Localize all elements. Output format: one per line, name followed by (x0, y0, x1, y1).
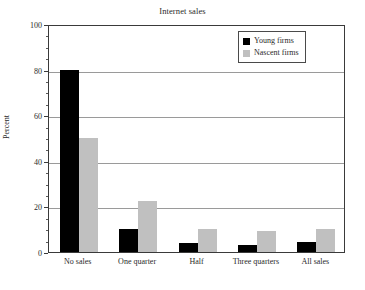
y-axis-tick-major (44, 253, 48, 254)
bar-nascent-0 (79, 138, 98, 252)
bar-young-1 (119, 229, 138, 252)
y-axis-tick-label: 100 (30, 21, 42, 30)
legend-swatch-icon-nascent-firms (243, 50, 250, 57)
x-axis-tick-label: All sales (301, 257, 329, 266)
y-axis-tick-label: 60 (34, 112, 42, 121)
bar-young-0 (60, 70, 79, 252)
x-axis-tick-label: No sales (64, 257, 91, 266)
bar-young-3 (238, 245, 257, 252)
bar-young-4 (297, 242, 316, 252)
legend-item-nascent-firms: Nascent firms (243, 47, 299, 59)
legend-swatch-icon-young-firms (243, 38, 250, 45)
y-axis-title: Percent (2, 115, 11, 139)
y-axis-tick-label: 80 (34, 66, 42, 75)
bar-nascent-4 (316, 229, 335, 252)
x-axis-tick-label: One quarter (118, 257, 156, 266)
chart-legend: Young firms Nascent firms (238, 31, 306, 63)
chart-title: Internet sales (0, 6, 365, 16)
bar-nascent-1 (138, 201, 157, 252)
legend-label-young-firms: Young firms (254, 37, 294, 45)
y-axis-tick-label: 40 (34, 157, 42, 166)
y-axis-tick-label: 20 (34, 203, 42, 212)
x-axis-tick-label: Three quarters (233, 257, 279, 266)
chart-container: Internet sales Percent 020406080100 No s… (0, 0, 365, 290)
x-axis: No salesOne quarterHalfThree quartersAll… (48, 257, 345, 271)
bar-nascent-2 (198, 229, 217, 252)
y-axis-tick-label: 0 (38, 249, 42, 258)
bar-young-2 (179, 243, 198, 252)
legend-label-nascent-firms: Nascent firms (254, 49, 299, 57)
x-axis-tick-label: Half (189, 257, 203, 266)
bar-nascent-3 (257, 231, 276, 252)
legend-item-young-firms: Young firms (243, 35, 299, 47)
